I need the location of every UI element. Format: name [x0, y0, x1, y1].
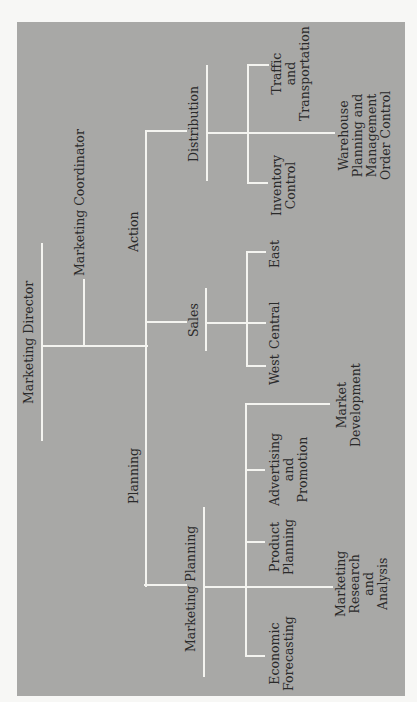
node-marketing-research: Marketing Research and Analysis	[334, 551, 390, 617]
node-planning: Planning	[127, 448, 141, 504]
node-marketing-director: Marketing Director	[22, 281, 36, 404]
marketing-planning-subbar	[245, 403, 247, 657]
planning-connector	[144, 584, 187, 586]
node-action: Action	[127, 211, 141, 252]
coordinator-stub	[83, 279, 85, 346]
distribution-subbar	[247, 64, 249, 184]
node-marketing-planning: Marketing Planning	[184, 526, 198, 652]
inventory-stub	[247, 182, 268, 184]
node-product-planning: Product Planning	[268, 519, 296, 575]
main-trunk	[145, 130, 147, 587]
node-inventory-control: Inventory Control	[270, 155, 298, 216]
node-west: West	[268, 354, 282, 385]
director-connector	[41, 345, 148, 347]
director-bar	[41, 243, 43, 441]
traffic-stub	[247, 64, 269, 66]
node-market-development: Market Development	[335, 363, 363, 447]
market-development-stub	[245, 403, 330, 405]
node-distribution: Distribution	[187, 86, 201, 162]
node-warehouse: Warehouse Planning and Management Order …	[337, 91, 393, 180]
node-east: East	[268, 240, 282, 268]
advertising-stub	[245, 469, 265, 471]
distribution-line	[206, 132, 335, 134]
west-stub	[246, 365, 266, 367]
distribution-connector	[145, 130, 187, 132]
forecasting-stub	[245, 655, 265, 657]
node-traffic-transportation: Traffic and Transportation	[270, 26, 312, 121]
node-central: Central	[268, 302, 282, 349]
sales-subbar	[246, 251, 248, 367]
node-economic-forecasting: Economic Forecasting	[268, 616, 296, 691]
distribution-bar	[206, 65, 208, 181]
sales-bar	[205, 288, 207, 351]
marketing-planning-line	[203, 586, 333, 588]
node-sales: Sales	[187, 303, 201, 337]
node-marketing-coordinator: Marketing Coordinator	[73, 129, 87, 276]
product-planning-stub	[245, 541, 265, 543]
sales-connector	[145, 321, 187, 323]
node-advertising-promotion: Advertising and Promotion	[268, 433, 310, 506]
sales-line	[205, 322, 266, 324]
marketing-planning-bar	[203, 507, 205, 677]
east-stub	[246, 251, 266, 253]
